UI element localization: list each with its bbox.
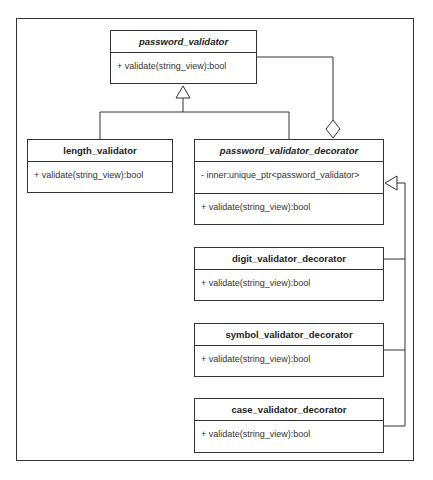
method: + validate(string_view):bool xyxy=(201,270,383,289)
methods-section: + validate(string_view):bool xyxy=(195,421,383,454)
class-password-validator[interactable]: password_validator + validate(string_vie… xyxy=(110,30,257,84)
attribute: - inner:unique_ptr<password_validator> xyxy=(201,162,383,181)
methods-section: + validate(string_view):bool xyxy=(111,53,256,85)
class-name: password_validator xyxy=(111,31,256,53)
class-digit-validator-decorator[interactable]: digit_validator_decorator + validate(str… xyxy=(194,247,384,301)
class-length-validator[interactable]: length_validator + validate(string_view)… xyxy=(27,139,173,193)
class-symbol-validator-decorator[interactable]: symbol_validator_decorator + validate(st… xyxy=(194,323,384,377)
class-case-validator-decorator[interactable]: case_validator_decorator + validate(stri… xyxy=(194,398,384,453)
method: + validate(string_view):bool xyxy=(201,194,383,213)
method: + validate(string_view):bool xyxy=(34,162,172,181)
methods-section: + validate(string_view):bool xyxy=(195,346,383,378)
method: + validate(string_view):bool xyxy=(201,346,383,365)
methods-section: + validate(string_view):bool xyxy=(195,194,383,226)
class-name: length_validator xyxy=(28,140,172,162)
method: + validate(string_view):bool xyxy=(201,421,383,440)
class-name: password_validator_decorator xyxy=(195,140,383,162)
methods-section: + validate(string_view):bool xyxy=(28,162,172,194)
methods-section: + validate(string_view):bool xyxy=(195,270,383,302)
class-name: symbol_validator_decorator xyxy=(195,324,383,346)
class-password-validator-decorator[interactable]: password_validator_decorator - inner:uni… xyxy=(194,139,384,225)
class-name: digit_validator_decorator xyxy=(195,248,383,270)
attributes-section: - inner:unique_ptr<password_validator> xyxy=(195,162,383,194)
method: + validate(string_view):bool xyxy=(117,53,256,72)
class-name: case_validator_decorator xyxy=(195,399,383,421)
